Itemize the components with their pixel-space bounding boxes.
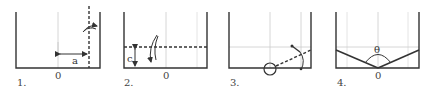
panel-2: c 0 2. [124, 12, 207, 88]
container-outline [124, 12, 207, 68]
v-right-line [378, 50, 419, 68]
dashed-reflection-line [276, 50, 311, 66]
angle-label-theta: θ [374, 44, 380, 55]
origin-label: 0 [163, 70, 169, 81]
dimension-label-a: a [72, 55, 78, 66]
panel-4: θ 0 4. [336, 12, 419, 88]
panel-number: 4. [337, 77, 347, 88]
dimension-label-c: c [127, 53, 133, 64]
origin-label: 0 [55, 70, 61, 81]
v-left-line [336, 50, 378, 68]
panel-1: a 0 1. [16, 6, 100, 88]
diagram-canvas: a 0 1. c 0 2. 3. [0, 0, 434, 92]
panel-number: 2. [124, 77, 134, 88]
container-outline [336, 12, 419, 68]
panel-3: 3. [229, 12, 311, 88]
panel-number: 1. [17, 77, 27, 88]
origin-label: 0 [375, 70, 381, 81]
panel-number: 3. [230, 77, 240, 88]
